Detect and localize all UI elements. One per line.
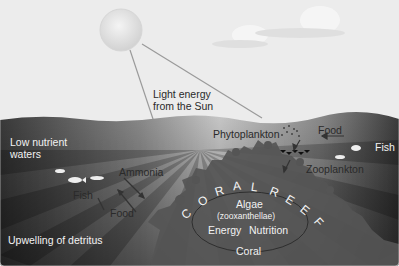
sun-label-line1: Light energy — [153, 88, 211, 100]
ammonia-label: Ammonia — [119, 166, 163, 178]
fish-right-label: Fish — [375, 141, 395, 153]
sun-label-line2: from the Sun — [153, 100, 213, 112]
fish-left-label: Fish — [73, 189, 93, 201]
phytoplankton-label: Phytoplankton — [213, 128, 280, 140]
coral-reef-letter: A — [232, 179, 241, 194]
upwelling-label: Upwelling of detritus — [8, 234, 103, 246]
coral-label: Coral — [236, 245, 261, 257]
low-nutrient-label-line1: Low nutrient — [10, 136, 67, 148]
food-right-label: Food — [318, 124, 342, 136]
nutrition-label: Nutrition — [249, 224, 288, 236]
sun-icon — [100, 9, 142, 51]
food-left-label: Food — [110, 207, 134, 219]
zooxanthellae-label: (zooxanthellae) — [217, 210, 275, 222]
cloud-icon — [212, 6, 345, 48]
energy-label: Energy — [208, 224, 241, 236]
algae-label: Algae — [236, 198, 263, 210]
zooplankton-label: Zooplankton — [306, 163, 364, 175]
low-nutrient-label-line2: waters — [10, 148, 41, 160]
coral-reef-diagram: Light energy from the Sun Low nutrient w… — [0, 0, 399, 266]
